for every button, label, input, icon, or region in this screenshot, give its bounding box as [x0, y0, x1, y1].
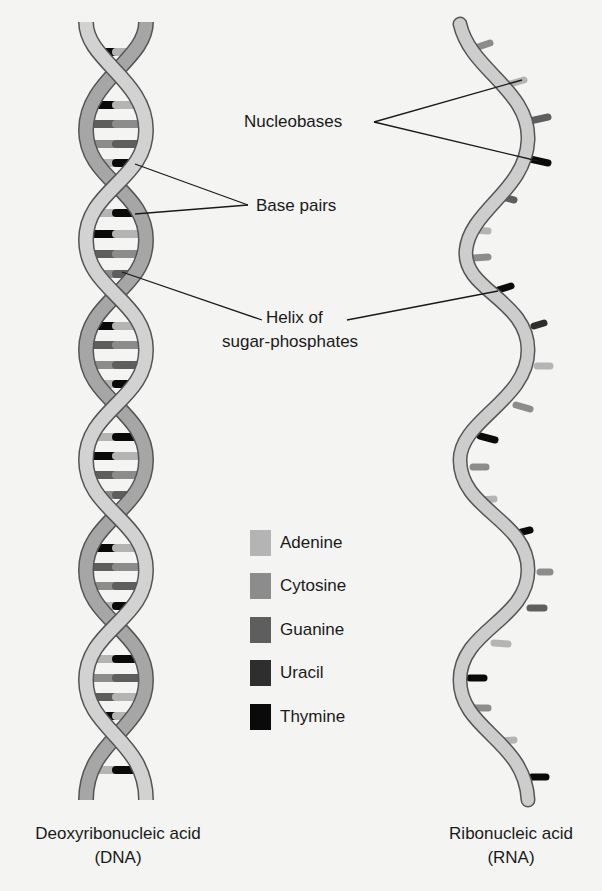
dna-caption-line1: Deoxyribonucleic acid	[0, 822, 236, 846]
legend-item-uracil: Uracil	[250, 652, 346, 696]
guanine-swatch	[250, 617, 271, 643]
label-helix-line1: Helix of	[266, 308, 323, 328]
base-pairs-leader-bottom	[135, 205, 248, 214]
nucleobases-leader-bottom	[374, 122, 538, 161]
base-legend: Adenine Cytosine Guanine Uracil Thymine	[250, 521, 346, 739]
nucleobases-leader-top	[374, 80, 522, 122]
base-pairs-leader-top	[135, 164, 248, 205]
legend-label: Thymine	[280, 707, 345, 727]
legend-item-guanine: Guanine	[250, 608, 346, 652]
rna-caption-line2: (RNA)	[420, 846, 602, 870]
rna-single-strand	[460, 24, 528, 800]
legend-label: Guanine	[280, 620, 344, 640]
legend-item-thymine: Thymine	[250, 695, 346, 739]
adenine-swatch	[250, 530, 271, 556]
thymine-swatch	[250, 704, 271, 730]
dna-rna-diagram	[0, 0, 602, 891]
label-base-pairs: Base pairs	[256, 196, 336, 216]
legend-item-cytosine: Cytosine	[250, 565, 346, 609]
dna-double-helix	[86, 22, 146, 800]
helix-leader-left	[122, 272, 262, 320]
legend-label: Uracil	[280, 663, 323, 683]
legend-item-adenine: Adenine	[250, 521, 346, 565]
dna-caption-line2: (DNA)	[0, 846, 236, 870]
label-helix-line2: sugar-phosphates	[222, 332, 358, 352]
dna-caption: Deoxyribonucleic acid (DNA)	[0, 822, 236, 870]
legend-label: Adenine	[280, 533, 342, 553]
helix-leader-right	[347, 291, 498, 320]
rna-caption-line1: Ribonucleic acid	[420, 822, 602, 846]
cytosine-swatch	[250, 573, 271, 599]
label-nucleobases: Nucleobases	[244, 112, 342, 132]
uracil-swatch	[250, 660, 271, 686]
legend-label: Cytosine	[280, 576, 346, 596]
rna-caption: Ribonucleic acid (RNA)	[420, 822, 602, 870]
